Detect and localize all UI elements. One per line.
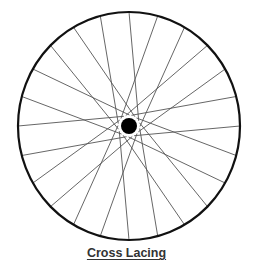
spoke bbox=[33, 69, 130, 115]
spoke bbox=[74, 126, 119, 225]
spoke bbox=[119, 131, 129, 240]
spoke bbox=[51, 45, 119, 129]
spoke bbox=[129, 137, 226, 183]
spoke bbox=[140, 123, 208, 207]
spoke bbox=[134, 126, 240, 136]
spoke bbox=[137, 118, 237, 156]
diagram-caption: Cross Lacing bbox=[0, 246, 253, 260]
spoke bbox=[121, 16, 158, 119]
spoke bbox=[140, 27, 185, 126]
spoke bbox=[18, 116, 124, 126]
spoke bbox=[51, 137, 133, 207]
wheel-diagram bbox=[0, 0, 253, 245]
spoke bbox=[126, 45, 208, 115]
spoke bbox=[129, 12, 139, 121]
hub bbox=[121, 118, 137, 134]
spoke bbox=[22, 96, 122, 134]
spoke bbox=[100, 134, 137, 237]
